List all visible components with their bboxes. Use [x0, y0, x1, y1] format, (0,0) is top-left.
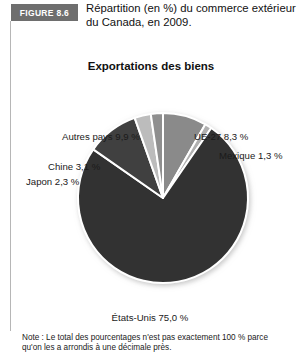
- slice-label-chine: Chine 3,1 %: [48, 161, 100, 172]
- figure-title: Répartition (en %) du commerce extérieur…: [86, 2, 296, 29]
- chart-title: Exportations des biens: [11, 60, 291, 72]
- figure-footnote: Note : Le total des pourcentages n'est p…: [22, 333, 290, 354]
- slice-label-ue27: UE-27 8,3 %: [194, 131, 248, 142]
- slice-label-japon: Japon 2,3 %: [26, 176, 79, 187]
- slice-label-autres-pays: Autres pays 9,9 %: [62, 131, 140, 142]
- slice-label-etats-unis: États-Unis 75,0 %: [0, 312, 300, 323]
- figure-header: FIGURE 8.6 Répartition (en %) du commerc…: [0, 0, 300, 46]
- pie-slice: [135, 114, 163, 198]
- pie-chart: Exportations des biens Autres pays 9,9 %…: [11, 46, 300, 321]
- pie-slice: [93, 118, 163, 198]
- pie-slice: [151, 113, 163, 198]
- figure-container: FIGURE 8.6 Répartition (en %) du commerc…: [0, 0, 300, 359]
- slice-label-mexique: Mexique 1,3 %: [219, 150, 282, 161]
- pie-slice: [163, 113, 205, 198]
- figure-number-badge: FIGURE 8.6: [11, 4, 78, 21]
